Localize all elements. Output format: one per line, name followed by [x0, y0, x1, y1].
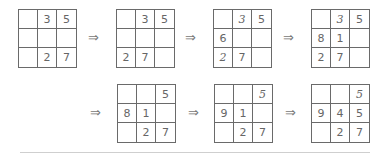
right-double-arrow-icon: ⇒ [283, 31, 294, 44]
grid-cell: 7 [156, 123, 175, 142]
grid-1: 3527 [18, 9, 77, 68]
grid-cell: 2 [331, 123, 350, 142]
grid-cell: 2 [117, 48, 136, 67]
grid-cell [19, 10, 38, 29]
grid-3: 35627 [213, 9, 272, 68]
grid-cell [156, 104, 175, 123]
grid-cell: 2 [137, 123, 156, 142]
grid-cell: 7 [253, 123, 272, 142]
grid-cell: 1 [331, 29, 350, 48]
grid-4: 358127 [311, 9, 370, 68]
grid-cell: 7 [350, 123, 369, 142]
grid-cell: 8 [118, 104, 137, 123]
grid-cell: 4 [331, 104, 350, 123]
grid-cell [215, 85, 234, 104]
horizontal-rule [20, 152, 370, 153]
grid-cell [350, 29, 369, 48]
grid-5: 58127 [117, 84, 176, 143]
grid-cell: 5 [253, 85, 272, 104]
grid-cell: 2 [214, 48, 233, 67]
grid-cell [331, 85, 350, 104]
grid-cell [19, 48, 38, 67]
grid-cell [155, 48, 174, 67]
grid-cell [117, 10, 136, 29]
grid-cell [312, 123, 331, 142]
grid-cell [117, 29, 136, 48]
grid-cell: 5 [252, 10, 271, 29]
grid-cell: 6 [214, 29, 233, 48]
right-double-arrow-icon: ⇒ [188, 106, 199, 119]
grid-cell: 5 [57, 10, 76, 29]
grid-cell: 3 [233, 10, 252, 29]
grid-cell: 3 [38, 10, 57, 29]
grid-cell: 5 [350, 85, 369, 104]
grid-cell [136, 29, 155, 48]
grid-cell [233, 29, 252, 48]
grid-cell: 3 [136, 10, 155, 29]
grid-cell: 2 [234, 123, 253, 142]
grid-cell [38, 29, 57, 48]
grid-cell: 7 [233, 48, 252, 67]
grid-cell: 8 [312, 29, 331, 48]
grid-cell [57, 29, 76, 48]
right-double-arrow-icon: ⇒ [185, 31, 196, 44]
grid-cell: 9 [215, 104, 234, 123]
grid-cell [137, 85, 156, 104]
grid-cell [118, 85, 137, 104]
right-double-arrow-icon: ⇒ [285, 106, 296, 119]
grid-cell: 5 [350, 10, 369, 29]
grid-cell [312, 85, 331, 104]
grid-7: 594527 [311, 84, 370, 143]
grid-cell [252, 48, 271, 67]
grid-cell [252, 29, 271, 48]
right-double-arrow-icon: ⇒ [90, 106, 101, 119]
grid-cell [312, 10, 331, 29]
grid-cell [350, 48, 369, 67]
grid-cell: 7 [136, 48, 155, 67]
grid-cell: 7 [57, 48, 76, 67]
grid-cell: 3 [331, 10, 350, 29]
grid-cell [234, 85, 253, 104]
grid-cell: 9 [312, 104, 331, 123]
grid-cell: 1 [137, 104, 156, 123]
grid-cell: 7 [331, 48, 350, 67]
grid-cell [253, 104, 272, 123]
grid-cell [155, 29, 174, 48]
right-double-arrow-icon: ⇒ [88, 31, 99, 44]
grid-cell [215, 123, 234, 142]
grid-cell: 1 [234, 104, 253, 123]
grid-cell: 2 [38, 48, 57, 67]
grid-cell: 5 [155, 10, 174, 29]
grid-cell [214, 10, 233, 29]
grid-cell [118, 123, 137, 142]
grid-cell: 5 [156, 85, 175, 104]
grid-2: 3527 [116, 9, 175, 68]
grid-cell: 5 [350, 104, 369, 123]
grid-6: 59127 [214, 84, 273, 143]
grid-cell [19, 29, 38, 48]
grid-cell: 2 [312, 48, 331, 67]
